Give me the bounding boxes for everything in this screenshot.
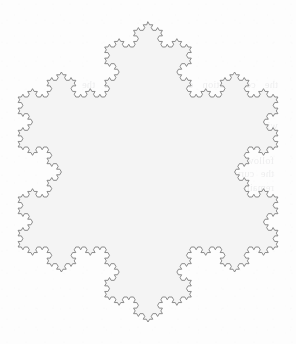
koch-snowflake-outline bbox=[18, 22, 278, 322]
koch-snowflake-figure bbox=[0, 0, 296, 344]
scanned-page: the construction of the curve and the re… bbox=[0, 0, 296, 344]
koch-snowflake-canvas bbox=[0, 0, 296, 344]
